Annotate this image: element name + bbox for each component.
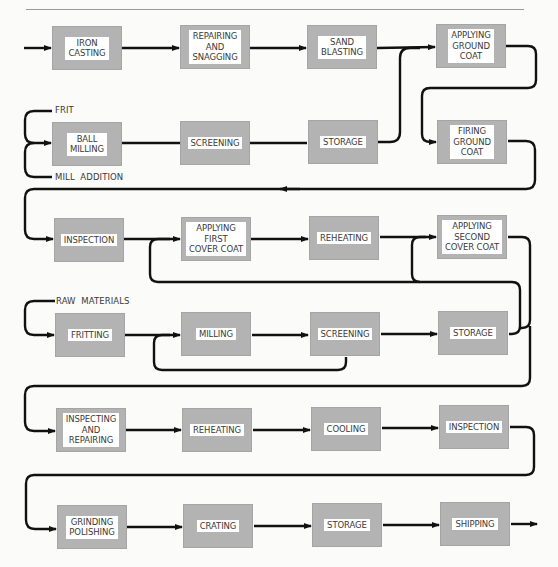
step-milling: MILLING [181,312,251,356]
step-applying-second-cover-coat: APPLYING SECOND COVER COAT [437,215,507,259]
step-storage: STORAGE [312,503,382,547]
step-storage: STORAGE [308,120,378,164]
step-reheating: REHEATING [182,408,252,452]
step-applying-first-cover-coat: APPLYING FIRST COVER COAT [181,217,251,261]
input-mill-addition: MILL ADDITION [55,172,123,182]
step-label: FRITTING [68,329,112,342]
step-label: IRON CASTING [65,37,108,60]
step-label: SAND BLASTING [318,36,366,59]
step-inspection: INSPECTION [439,405,509,449]
step-inspection: INSPECTION [54,218,124,262]
step-label: APPLYING FIRST COVER COAT [186,222,246,256]
step-fritting: FRITTING [55,313,125,357]
input-raw-materials: RAW MATERIALS [56,296,130,306]
step-label: CRATING [197,520,240,533]
step-label: APPLYING SECOND COVER COAT [442,220,502,254]
step-label: SHIPPING [452,518,497,531]
step-firing-ground-coat: FIRING GROUND COAT [437,120,507,164]
step-cooling: COOLING [311,407,381,451]
step-sand-blasting: SAND BLASTING [307,25,377,69]
step-label: REHEATING [190,424,244,437]
step-label: APPLYING GROUND COAT [448,29,494,63]
step-label: MILLING [196,328,236,341]
step-label: COOLING [324,423,369,436]
step-label: SCREENING [188,137,243,150]
step-label: INSPECTING AND REPAIRING [63,413,119,447]
step-repairing-and-snagging: REPAIRING AND SNAGGING [180,25,250,69]
step-label: GRINDING POLISHING [66,516,117,539]
step-label: REPAIRING AND SNAGGING [189,30,240,64]
step-label: BALL MILLING [67,133,107,156]
step-grinding-polishing: GRINDING POLISHING [57,505,127,549]
step-applying-ground-coat: APPLYING GROUND COAT [436,24,506,68]
step-inspecting-and-repairing: INSPECTING AND REPAIRING [56,408,126,452]
step-ball-milling: BALL MILLING [52,122,122,166]
step-label: INSPECTION [446,421,502,434]
step-screening: SCREENING [310,312,380,356]
step-crating: CRATING [183,504,253,548]
step-label: STORAGE [324,519,370,532]
step-label: FIRING GROUND COAT [450,125,494,159]
step-iron-casting: IRON CASTING [52,26,122,70]
step-screening: SCREENING [180,121,250,165]
flow-connectors [0,0,558,567]
step-label: SCREENING [318,328,373,341]
step-label: REHEATING [317,232,371,245]
step-label: STORAGE [320,136,366,149]
step-label: STORAGE [450,327,496,340]
step-shipping: SHIPPING [440,502,510,546]
input-frit: FRIT [55,105,74,115]
step-label: INSPECTION [61,234,117,247]
step-reheating: REHEATING [309,216,379,260]
step-storage: STORAGE [438,311,508,355]
